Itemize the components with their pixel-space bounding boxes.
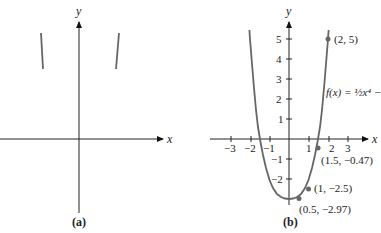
point-1.5-neg0.47 (316, 146, 321, 151)
point-label: (1.5, −0.47) (321, 154, 373, 167)
x-axis-label-b: x (371, 132, 378, 146)
left-end-segment (41, 33, 43, 69)
point-0.5-neg2.97 (297, 196, 302, 201)
x-tick-label: 3 (345, 142, 351, 154)
caption-b: (b) (283, 215, 298, 229)
figure-canvas: x y (a) x y −3 −2 −1 1 2 3 (0, 0, 381, 233)
x-tick-label: 1 (306, 142, 312, 154)
function-label: f(x) = ½x⁴ − (326, 86, 381, 99)
y-axis-label-a: y (75, 4, 82, 18)
y-tick-label: 1 (278, 113, 284, 125)
caption-a: (a) (72, 215, 86, 229)
point-label: (0.5, −2.97) (299, 203, 351, 216)
y-tick-label: 5 (276, 33, 282, 45)
y-tick-label: 3 (276, 73, 282, 85)
x-tick-label: −2 (244, 142, 256, 154)
x-axis-label-a: x (166, 132, 173, 146)
y-tick-label: 4 (276, 53, 282, 65)
x-tick-label: −3 (224, 142, 236, 154)
y-tick-label: −1 (271, 153, 283, 165)
point-1-neg2.5 (306, 187, 311, 192)
point-label: (2, 5) (334, 33, 358, 46)
panel-a: x y (a) (0, 4, 173, 229)
panel-b: x y −3 −2 −1 1 2 3 5 4 3 2 1 (210, 4, 381, 229)
y-tick-label: 2 (276, 93, 282, 105)
y-axis-label-b: y (285, 4, 292, 18)
point-label: (1, −2.5) (314, 182, 353, 195)
y-tick-label: −2 (271, 173, 283, 185)
point-2-5 (326, 37, 331, 42)
right-end-segment (116, 33, 119, 69)
x-tick-label: 2 (329, 142, 335, 154)
